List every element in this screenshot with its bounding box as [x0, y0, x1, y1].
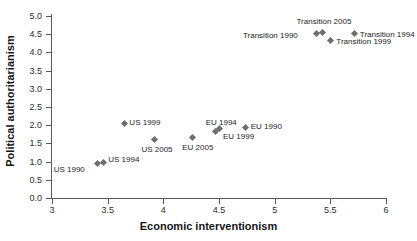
y-tick-mark: [46, 198, 51, 199]
y-tick-mark: [46, 162, 51, 163]
y-axis-title-wrap: Political authoritarianism: [0, 0, 20, 200]
data-point-label: EU 1990: [251, 123, 282, 131]
data-point-label: EU 2005: [182, 144, 213, 152]
scatter-chart: 0.00.51.01.52.02.53.03.54.04.55.0 33.544…: [0, 0, 417, 241]
x-axis-title: Economic interventionism: [0, 220, 417, 232]
x-tick-label: 3: [32, 206, 72, 215]
y-tick-mark: [46, 89, 51, 90]
x-tick-label: 4.5: [199, 206, 239, 215]
data-point-label: US 1994: [108, 156, 139, 164]
y-tick-mark: [46, 180, 51, 181]
x-tick-mark: [163, 199, 164, 204]
y-tick-mark: [46, 143, 51, 144]
x-tick-mark: [330, 199, 331, 204]
x-tick-mark: [219, 199, 220, 204]
data-point-label: EU 1999: [223, 133, 254, 141]
y-tick-mark: [46, 125, 51, 126]
x-tick-mark: [386, 199, 387, 204]
data-point-label: US 2005: [141, 146, 172, 154]
y-tick-mark: [46, 52, 51, 53]
x-tick-label: 5.5: [310, 206, 350, 215]
data-point-label: US 1990: [54, 166, 85, 174]
data-point-label: Transition 1990: [243, 32, 298, 40]
data-point-label: EU 1994: [206, 119, 237, 127]
x-tick-mark: [275, 199, 276, 204]
y-axis-title: Political authoritarianism: [4, 11, 16, 191]
data-point-label: Transition 1999: [336, 38, 391, 46]
data-point-label: Transition 1994: [360, 31, 415, 39]
data-point-label: Transition 2005: [297, 18, 352, 26]
x-tick-label: 5: [255, 206, 295, 215]
y-tick-mark: [46, 16, 51, 17]
x-tick-mark: [52, 199, 53, 204]
x-tick-label: 4: [143, 206, 183, 215]
x-tick-label: 3.5: [88, 206, 128, 215]
y-tick-mark: [46, 34, 51, 35]
data-point-label: US 1999: [129, 119, 160, 127]
y-tick-mark: [46, 71, 51, 72]
y-tick-mark: [46, 107, 51, 108]
x-tick-label: 6: [366, 206, 406, 215]
x-tick-mark: [108, 199, 109, 204]
